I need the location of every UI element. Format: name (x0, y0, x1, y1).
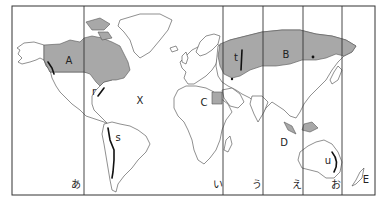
region-label-a: A (66, 56, 73, 66)
feature-label-s: s (115, 133, 120, 143)
meridian-label-u: う (252, 180, 262, 190)
mountain-line-r-appalachians (98, 88, 104, 96)
shaded-region-southeast-asia (284, 122, 318, 134)
madagascar-land (224, 136, 232, 152)
india-land (250, 96, 268, 122)
feature-label-t: t (234, 53, 238, 63)
region-label-x: X (137, 96, 144, 106)
meridian-label-e: え (292, 180, 302, 190)
greenland-land (118, 14, 172, 58)
meridian-label-o: お (331, 180, 341, 190)
mountain-line-t-urals (241, 50, 242, 70)
iceland-land (170, 46, 178, 52)
meridian-label-a: あ (71, 180, 81, 190)
shaded-region-c-egypt (212, 92, 222, 104)
meridian-label-i: い (213, 180, 223, 190)
point-marker-siberia (312, 56, 315, 59)
feature-label-u: u (325, 156, 331, 166)
point-marker-central-asia (231, 78, 233, 80)
region-label-d: D (280, 138, 288, 148)
region-label-b: B (283, 50, 290, 60)
feature-label-r: r (92, 87, 96, 97)
world-map (0, 0, 378, 200)
region-label-e: E (363, 175, 369, 185)
region-label-c: C (201, 98, 208, 108)
